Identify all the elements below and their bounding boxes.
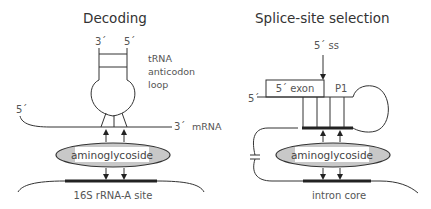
diagram-canvas: Decoding 3´ 5´ tRNA anticodon loop 5´ 3´… [0,0,431,209]
p1-pairing-lines [303,97,344,128]
target-label: 16S rRNA-A site [74,190,153,201]
mrna-5prime-label: 5´ [16,104,27,115]
strand-5prime-label: 5´ [248,93,259,104]
p1-loop [353,86,388,132]
mrna-label: mRNA [192,121,222,132]
aminoglycoside-ellipse: aminoglycoside [276,143,390,167]
drug-label: aminoglycoside [71,149,153,161]
5ss-label: 5´ ss [314,40,339,51]
splice-title: Splice-site selection [255,10,390,26]
trna-anticodon-loop [91,48,135,127]
mrna-3prime-label: 3´ [174,121,185,132]
drug-label: aminoglycoside [291,149,373,161]
splice-panel: Splice-site selection 5´ ss 5´ exon P1 5… [248,10,418,201]
trna-3prime-label: 3´ [95,36,106,47]
aminoglycoside-ellipse: aminoglycoside [56,143,170,167]
mrna-strand [20,116,172,127]
target-label: intron core [312,190,366,201]
trna-label-line2: anticodon [148,66,195,77]
exon-label: 5´ exon [276,83,315,94]
decoding-title: Decoding [83,10,147,26]
decoding-panel: Decoding 3´ 5´ tRNA anticodon loop 5´ 3´… [16,10,222,201]
trna-5prime-label: 5´ [124,36,135,47]
trna-label-line3: loop [148,79,168,90]
p1-label: P1 [335,83,347,94]
trna-label-line1: tRNA [148,53,172,64]
